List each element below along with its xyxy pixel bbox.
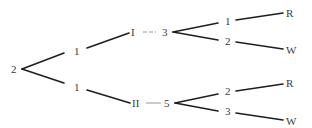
leaf-R-upper: R (286, 7, 294, 19)
level3-label-a: 1 (225, 15, 231, 27)
level1-lower-label: 1 (74, 81, 80, 93)
edge-5-to-2 (175, 94, 218, 103)
level2-upper-value: 3 (162, 26, 168, 38)
edge-3-to-2 (173, 32, 218, 40)
edge-upper-to-I (87, 33, 129, 48)
root-node-label: 2 (11, 63, 17, 75)
level2-upper-label: I (131, 26, 135, 38)
edge-root-to-lower (22, 69, 64, 83)
level1-upper-label: 1 (74, 45, 80, 57)
edge-c-to-R (236, 84, 283, 91)
edge-3-to-1 (173, 23, 218, 32)
edge-5-to-3 (175, 103, 218, 111)
leaf-W-upper: W (286, 44, 297, 56)
edge-d-to-W (236, 113, 283, 120)
level3-label-d: 3 (225, 105, 231, 117)
level2-lower-value: 5 (164, 97, 170, 109)
level3-label-b: 2 (225, 35, 231, 47)
leaf-W-lower: W (286, 115, 297, 127)
leaf-R-lower: R (286, 77, 294, 89)
level2-lower-label: II (132, 97, 140, 109)
edge-a-to-R (236, 13, 283, 20)
edge-lower-to-II (87, 90, 130, 103)
level3-label-c: 2 (225, 85, 231, 97)
edge-root-to-upper (22, 53, 64, 69)
edge-b-to-W (236, 42, 283, 49)
tree-diagram: 2 1 1 I 3 II 5 1 2 2 3 R W R W (0, 0, 312, 128)
